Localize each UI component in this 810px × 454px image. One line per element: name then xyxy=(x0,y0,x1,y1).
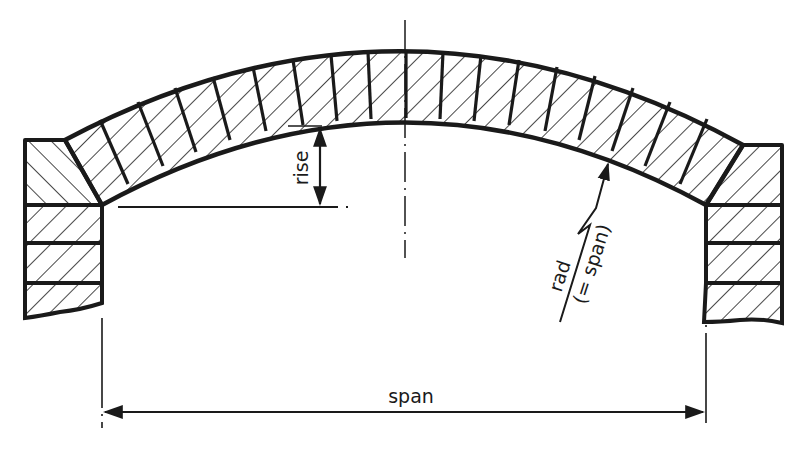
span-label: span xyxy=(388,385,434,407)
right-pier-course-3 xyxy=(704,283,782,323)
right-pier-course-2 xyxy=(706,243,782,283)
rise-label: rise xyxy=(290,151,312,186)
left-pier-course-3 xyxy=(25,283,102,318)
arch-ring xyxy=(65,51,743,205)
span-dimension: span xyxy=(102,318,706,428)
radius-dimension: rad (= span) xyxy=(544,164,615,322)
left-pier-course-1 xyxy=(25,205,102,243)
arch-body xyxy=(65,51,743,205)
rad-note-label: (= span) xyxy=(568,221,614,306)
right-pier-course-1 xyxy=(706,205,782,243)
left-pier-course-2 xyxy=(25,243,102,283)
arch-diagram: rise rad (= span) span xyxy=(0,0,810,454)
